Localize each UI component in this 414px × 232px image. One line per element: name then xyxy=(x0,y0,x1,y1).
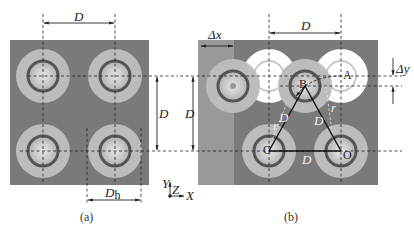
label-point-c: C xyxy=(263,143,271,157)
panel-a: D D Dh Y Z X (a) xyxy=(10,9,195,224)
label-a-dh: Dh xyxy=(104,185,120,202)
panel-b: D Δx D Δy A B C O D D D r r (b) xyxy=(180,14,410,224)
label-point-a: A xyxy=(343,68,352,82)
label-a-top-d: D xyxy=(73,9,84,24)
label-delta-x: Δx xyxy=(207,27,222,42)
caption-a: (a) xyxy=(80,210,93,224)
figure-canvas: D D Dh Y Z X (a) xyxy=(0,0,414,232)
caption-b: (b) xyxy=(284,210,298,224)
label-a-right-d: D xyxy=(158,106,169,121)
axis-x-label: X xyxy=(185,188,195,203)
label-side-bo: D xyxy=(313,113,324,128)
axes-triad: Y Z X xyxy=(162,176,195,203)
axis-z-label: Z xyxy=(172,182,180,197)
hole-b-left xyxy=(206,59,260,113)
label-point-o: O xyxy=(343,148,352,162)
label-b-top-d: D xyxy=(300,18,311,33)
label-delta-y: Δy xyxy=(395,61,410,76)
label-side-bc: D xyxy=(278,110,289,125)
label-b-left-d: D xyxy=(184,106,195,121)
label-side-co: D xyxy=(301,152,312,167)
label-point-b: B xyxy=(299,77,307,91)
